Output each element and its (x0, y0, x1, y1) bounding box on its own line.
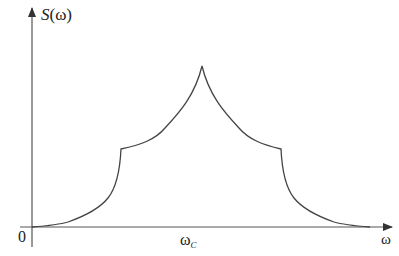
y-axis-label-argument: (ω) (50, 5, 73, 24)
y-axis-label: S(ω) (41, 6, 72, 23)
center-frequency-label: ωC (180, 232, 197, 250)
spectrum-curve (32, 66, 370, 227)
origin-label: 0 (18, 229, 26, 245)
spectrum-plot (0, 0, 399, 256)
spectrum-diagram: S(ω) 0 ωC ω (0, 0, 399, 256)
center-frequency-subscript: C (191, 240, 197, 250)
y-axis-label-function: S (41, 5, 50, 24)
x-axis-label: ω (381, 232, 391, 247)
center-frequency-symbol: ω (180, 231, 191, 248)
